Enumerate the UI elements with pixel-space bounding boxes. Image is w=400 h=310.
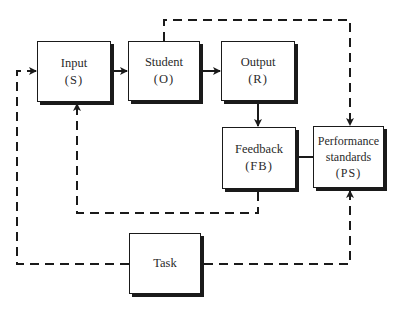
- input-label: Input: [61, 55, 87, 72]
- performance-standards-box: Performance standards (PS): [313, 126, 384, 188]
- input-box: Input (S): [37, 41, 111, 102]
- performance-standards-label-line2: standards: [326, 149, 371, 165]
- student-abbr: (O): [154, 71, 174, 88]
- student-label: Student: [145, 54, 183, 71]
- output-abbr: (R): [248, 71, 268, 88]
- output-label: Output: [241, 54, 276, 71]
- feedback-abbr: (FB): [245, 158, 273, 175]
- output-box: Output (R): [221, 41, 295, 101]
- task-label: Task: [153, 255, 176, 272]
- performance-standards-abbr: (PS): [336, 165, 361, 181]
- input-abbr: (S): [65, 72, 83, 89]
- performance-standards-label-line1: Performance: [318, 133, 379, 149]
- feedback-label: Feedback: [235, 141, 283, 158]
- feedback-loop-diagram: Input (S) Student (O) Output (R) Feedbac…: [0, 0, 400, 310]
- student-box: Student (O): [128, 41, 200, 101]
- dashed-task-to-standards: [204, 191, 350, 264]
- task-box: Task: [129, 233, 201, 294]
- feedback-box: Feedback (FB): [222, 127, 296, 189]
